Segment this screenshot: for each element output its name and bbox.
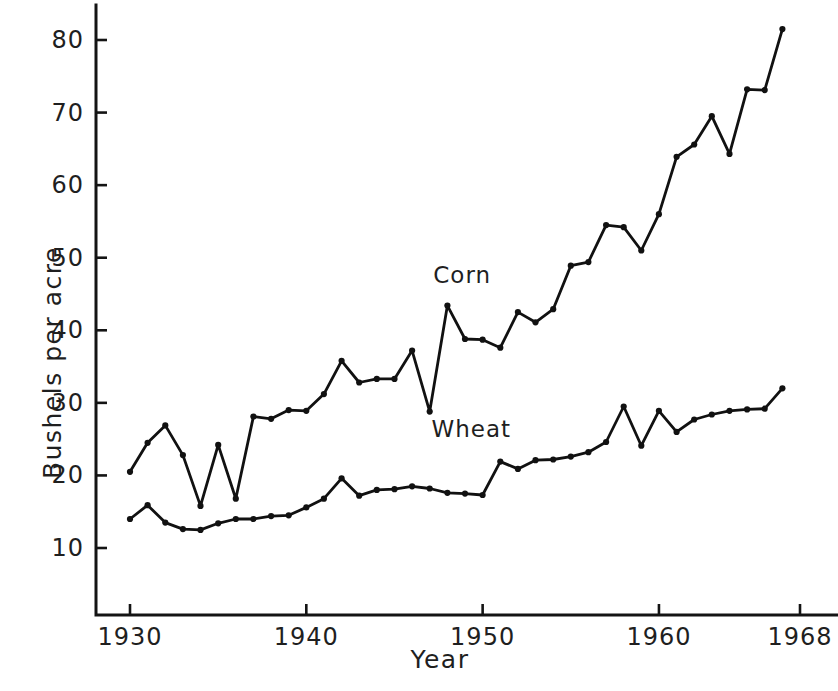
data-point [356, 379, 362, 385]
data-point [779, 26, 785, 32]
data-point [374, 376, 380, 382]
y-axis-tick-label: 20 [0, 461, 84, 489]
series-label-corn: Corn [433, 262, 491, 288]
data-point [356, 493, 362, 499]
y-axis-tick-label: 80 [0, 26, 84, 54]
axis-lines [96, 5, 838, 615]
data-point [339, 475, 345, 481]
data-point [286, 512, 292, 518]
data-point [444, 490, 450, 496]
data-point [162, 422, 168, 428]
data-point [480, 337, 486, 343]
data-point [321, 391, 327, 397]
data-point [656, 408, 662, 414]
series-line-wheat [130, 388, 782, 530]
data-point [550, 306, 556, 312]
data-point [744, 86, 750, 92]
data-point [532, 457, 538, 463]
data-point [374, 487, 380, 493]
data-point [321, 496, 327, 502]
data-point [145, 502, 151, 508]
x-axis-tick-label: 1960 [626, 623, 691, 651]
data-point [286, 407, 292, 413]
data-point [762, 406, 768, 412]
data-point [444, 303, 450, 309]
data-point [674, 154, 680, 160]
data-point [339, 358, 345, 364]
data-point [462, 491, 468, 497]
data-point [709, 113, 715, 119]
data-point [691, 416, 697, 422]
data-point [603, 222, 609, 228]
data-point [568, 454, 574, 460]
data-point [674, 429, 680, 435]
data-point [233, 496, 239, 502]
data-point [391, 376, 397, 382]
data-point [409, 483, 415, 489]
series-label-wheat: Wheat [432, 416, 512, 442]
data-point [603, 439, 609, 445]
data-point [215, 442, 221, 448]
x-axis-tick-label: 1940 [274, 623, 339, 651]
y-axis-tick-label: 60 [0, 171, 84, 199]
data-point [515, 309, 521, 315]
x-axis-tick-label: 1968 [767, 623, 832, 651]
data-point [215, 520, 221, 526]
data-point [585, 449, 591, 455]
data-point [197, 527, 203, 533]
y-axis-tick-label: 10 [0, 534, 84, 562]
data-point [568, 263, 574, 269]
data-point [497, 345, 503, 351]
data-point [250, 516, 256, 522]
data-point [145, 440, 151, 446]
data-point [427, 409, 433, 415]
plot-area [0, 0, 838, 691]
data-point [621, 403, 627, 409]
data-point [303, 408, 309, 414]
x-axis-tick-label: 1930 [97, 623, 162, 651]
data-point [532, 319, 538, 325]
data-point [127, 516, 133, 522]
data-point [391, 486, 397, 492]
data-point [656, 211, 662, 217]
data-point [197, 503, 203, 509]
data-point [621, 224, 627, 230]
data-point [779, 385, 785, 391]
data-point [268, 416, 274, 422]
data-point [427, 485, 433, 491]
data-point [162, 520, 168, 526]
data-point [462, 336, 468, 342]
data-point [127, 469, 133, 475]
chart-figure: Bushels per acre Year 102030405060708019… [0, 0, 838, 691]
data-point [515, 466, 521, 472]
x-axis-tick-label: 1950 [450, 623, 515, 651]
data-point [585, 259, 591, 265]
data-point [180, 452, 186, 458]
data-point [180, 526, 186, 532]
data-point [744, 406, 750, 412]
y-axis-tick-label: 50 [0, 244, 84, 272]
data-point [409, 348, 415, 354]
data-point [480, 492, 486, 498]
axes-group [96, 5, 838, 615]
data-point [726, 151, 732, 157]
data-point [726, 408, 732, 414]
data-point [638, 443, 644, 449]
y-axis-tick-label: 30 [0, 389, 84, 417]
data-point [268, 513, 274, 519]
data-point [303, 504, 309, 510]
data-point [233, 516, 239, 522]
y-axis-tick-label: 40 [0, 316, 84, 344]
data-point [762, 87, 768, 93]
data-point [497, 459, 503, 465]
data-point [691, 141, 697, 147]
data-point [709, 411, 715, 417]
data-point [550, 456, 556, 462]
data-point [638, 247, 644, 253]
y-axis-tick-label: 70 [0, 99, 84, 127]
data-point [250, 414, 256, 420]
